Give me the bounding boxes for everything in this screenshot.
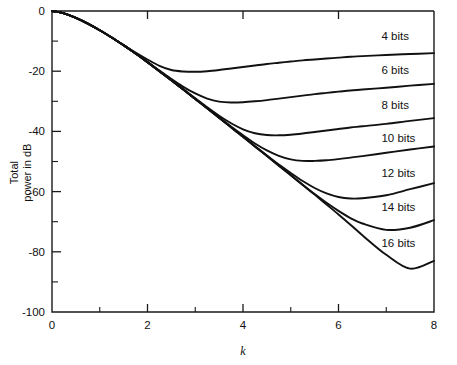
series-label-10-bits: 10 bits <box>381 132 415 144</box>
y-tick-label: -20 <box>28 65 45 77</box>
curve-8-bits <box>52 11 434 135</box>
data-curves <box>52 11 434 269</box>
x-tick-label: 2 <box>144 319 150 331</box>
series-label-6-bits: 6 bits <box>381 64 409 76</box>
y-axis-title: Total power in dB <box>6 118 36 228</box>
tick-labels: 024680-20-40-60-80-100 <box>22 5 437 331</box>
series-label-12-bits: 12 bits <box>381 167 415 179</box>
series-label-14-bits: 14 bits <box>381 201 415 213</box>
x-axis-title: k <box>240 344 246 358</box>
curve-10-bits <box>52 11 434 161</box>
axis-ticks <box>52 11 386 312</box>
y-axis-title-line1: Total <box>8 144 21 202</box>
chart-figure: 024680-20-40-60-80-100 4 bits6 bits8 bit… <box>0 0 457 365</box>
x-tick-label: 0 <box>49 319 55 331</box>
curve-16-bits <box>52 11 434 269</box>
series-label-8-bits: 8 bits <box>381 99 409 111</box>
series-labels: 4 bits6 bits8 bits10 bits12 bits14 bits1… <box>381 30 415 250</box>
curve-4-bits <box>52 11 434 72</box>
x-tick-label: 4 <box>240 319 247 331</box>
x-tick-label: 8 <box>431 319 437 331</box>
y-axis-title-line2: power in dB <box>21 144 34 202</box>
x-tick-label: 6 <box>335 319 341 331</box>
y-tick-label: 0 <box>39 5 45 17</box>
curve-6-bits <box>52 11 434 103</box>
curve-12-bits <box>52 11 434 199</box>
y-tick-label: -80 <box>28 246 45 258</box>
series-label-4-bits: 4 bits <box>381 30 409 42</box>
plot-area: 024680-20-40-60-80-100 4 bits6 bits8 bit… <box>0 0 457 365</box>
series-label-16-bits: 16 bits <box>381 237 415 249</box>
y-tick-label: -100 <box>22 306 45 318</box>
